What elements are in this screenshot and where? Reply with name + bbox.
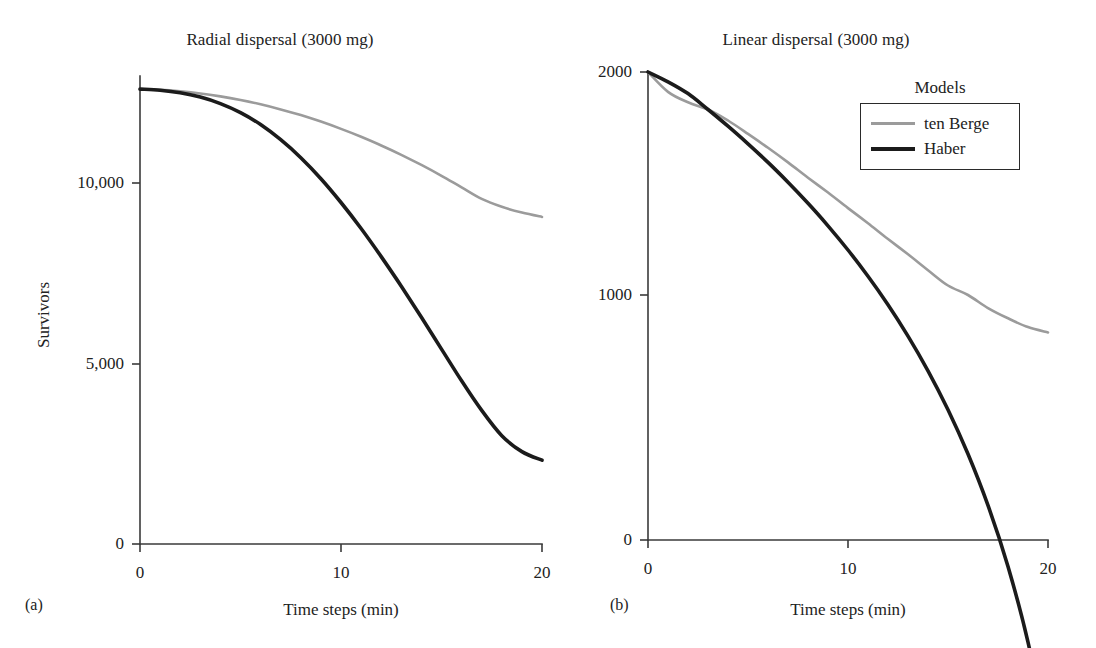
legend-label-ten-berge: ten Berge <box>924 115 989 132</box>
panel-a-ylabel-10000: 10,000 <box>34 173 124 193</box>
panel-a-curve-ten-berge <box>140 89 542 217</box>
legend-item-haber[interactable]: Haber <box>871 136 1009 161</box>
panel-b-x-axis-title: Time steps (min) <box>790 600 906 620</box>
panel-b-ylabel-2000: 2000 <box>542 62 632 82</box>
figure-container: Radial dispersal (3000 mg) 10,000 5,000 … <box>0 0 1096 648</box>
panel-b-letter: (b) <box>610 596 629 614</box>
panel-a-xlabel-10: 10 <box>333 563 350 583</box>
legend: Models ten Berge Haber <box>860 78 1020 170</box>
legend-title: Models <box>860 78 1020 98</box>
panel-b-ylabel-1000: 1000 <box>542 285 632 305</box>
panel-b-xlabel-20: 20 <box>1040 559 1057 579</box>
panel-a-radial-dispersal: Radial dispersal (3000 mg) 10,000 5,000 … <box>0 0 548 648</box>
panel-b-ylabel-0: 0 <box>542 530 632 550</box>
legend-item-ten-berge[interactable]: ten Berge <box>871 111 1009 136</box>
panel-a-curve-haber <box>140 89 542 460</box>
panel-a-x-axis-title: Time steps (min) <box>283 600 399 620</box>
panel-a-letter: (a) <box>25 596 43 614</box>
legend-label-haber: Haber <box>924 140 966 157</box>
panel-b-xlabel-10: 10 <box>840 559 857 579</box>
panel-a-y-axis-title: Survivors <box>34 260 54 370</box>
legend-line-haber-icon <box>871 147 915 151</box>
legend-box: ten Berge Haber <box>860 103 1020 170</box>
panel-b-xlabel-0: 0 <box>644 559 653 579</box>
legend-line-ten-berge-icon <box>871 122 915 125</box>
panel-a-xlabel-0: 0 <box>136 563 145 583</box>
panel-a-ylabel-0: 0 <box>34 534 124 554</box>
